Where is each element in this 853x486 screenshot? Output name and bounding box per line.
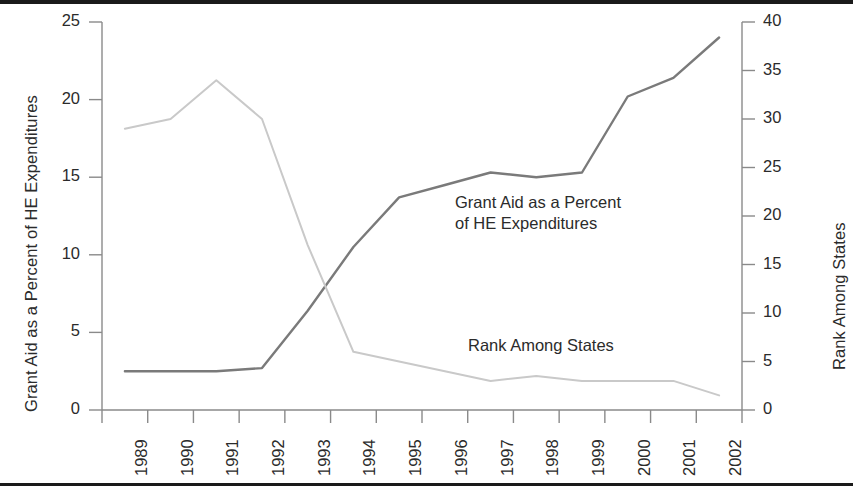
rank-line	[125, 80, 719, 395]
grant-aid-line	[125, 38, 719, 372]
series-lines	[125, 38, 719, 396]
chart-figure: Grant Aid as a Percent of HE Expenditure…	[0, 0, 853, 486]
rank-series-annotation: Rank Among States	[468, 335, 614, 356]
plot-area	[0, 0, 853, 486]
grant-aid-series-annotation: Grant Aid as a Percent of HE Expenditure…	[455, 192, 621, 234]
axis-lines	[89, 22, 755, 423]
